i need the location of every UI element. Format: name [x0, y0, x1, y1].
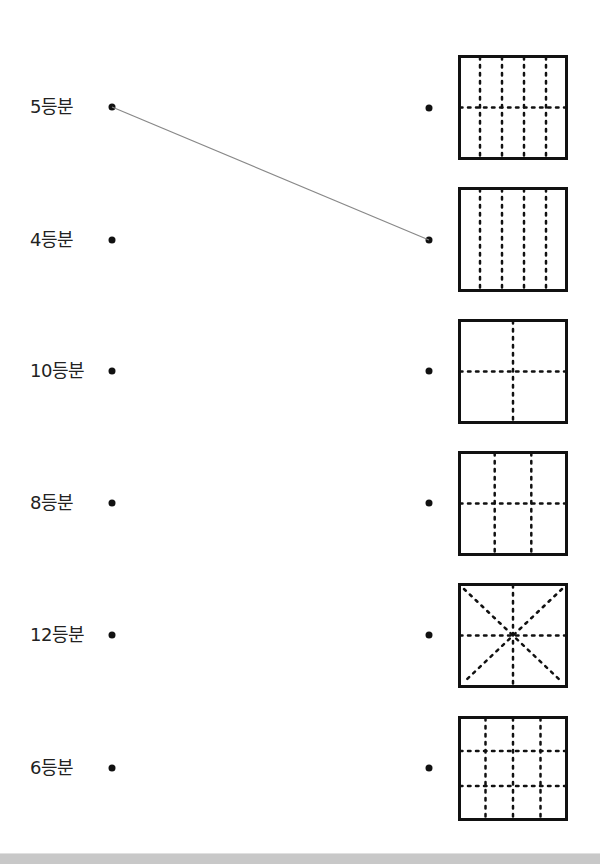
figure-5-diagonals-8-parts [458, 583, 568, 688]
connector-5-parts-to-figure-2[interactable] [112, 107, 429, 240]
figure-2-grid-5-parts [458, 187, 568, 292]
figure-1-grid-10-parts [458, 55, 568, 160]
figure-3-grid-4-parts [458, 319, 568, 424]
bottom-bar [0, 853, 600, 864]
figure-6-grid-12-parts [458, 716, 568, 821]
figure-4-grid-6-parts [458, 451, 568, 556]
